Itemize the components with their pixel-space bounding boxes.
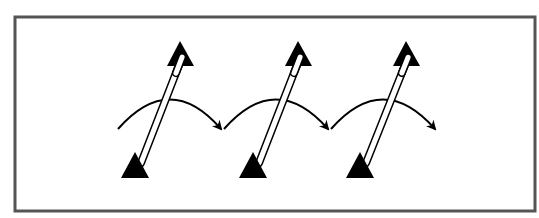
rotation-diagram [0, 0, 539, 218]
